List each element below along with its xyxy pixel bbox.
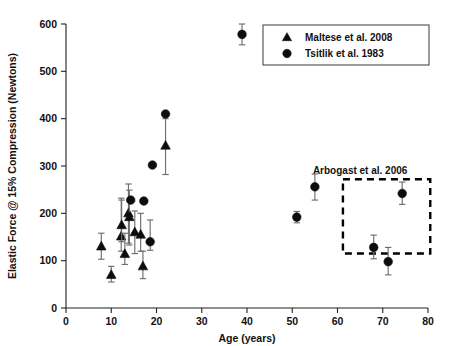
y-tick-label: 0: [51, 302, 57, 314]
x-tick-label: 0: [63, 315, 69, 327]
y-axis-title: Elastic Force @ 15% Compression (Newtons…: [6, 53, 18, 279]
x-tick-label: 10: [105, 315, 117, 327]
x-tick-label: 80: [422, 315, 434, 327]
data-point-circle[interactable]: [292, 213, 301, 222]
x-tick-label: 70: [377, 315, 389, 327]
y-tick-label: 300: [39, 160, 57, 172]
legend-entry-label: Maltese et al. 2008: [305, 32, 393, 43]
data-point-triangle[interactable]: [161, 140, 171, 149]
data-point-circle[interactable]: [146, 237, 155, 246]
chart-figure: 010020030040050060001020304050607080Age …: [0, 0, 451, 346]
y-tick-label: 600: [39, 18, 57, 30]
data-point-circle[interactable]: [126, 196, 135, 205]
annotation-box-arbogast: [343, 179, 430, 253]
x-tick-label: 50: [286, 315, 298, 327]
x-tick-label: 40: [241, 315, 253, 327]
legend-marker-circle: [283, 49, 291, 57]
data-point-triangle[interactable]: [138, 261, 148, 270]
y-tick-label: 200: [39, 207, 57, 219]
data-point-triangle[interactable]: [96, 241, 106, 250]
x-tick-label: 20: [151, 315, 163, 327]
data-point-triangle[interactable]: [106, 270, 116, 279]
y-tick-label: 500: [39, 65, 57, 77]
y-tick-label: 100: [39, 254, 57, 266]
scatter-plot: 010020030040050060001020304050607080Age …: [0, 0, 451, 346]
data-point-circle[interactable]: [369, 243, 378, 252]
x-tick-label: 60: [332, 315, 344, 327]
data-point-circle[interactable]: [140, 197, 149, 206]
data-point-circle[interactable]: [161, 110, 170, 119]
data-point-triangle[interactable]: [117, 220, 127, 229]
data-point-circle[interactable]: [311, 183, 320, 192]
y-tick-label: 400: [39, 112, 57, 124]
data-point-circle[interactable]: [398, 189, 407, 198]
x-tick-label: 30: [196, 315, 208, 327]
x-axis-title: Age (years): [218, 332, 275, 344]
data-point-circle[interactable]: [384, 257, 393, 266]
legend: Maltese et al. 2008Tsitlik et al. 1983: [263, 25, 429, 65]
data-point-circle[interactable]: [148, 161, 157, 170]
data-point-circle[interactable]: [238, 30, 247, 39]
annotation-label-arbogast: Arbogast et al. 2006: [313, 165, 408, 176]
legend-entry-label: Tsitlik et al. 1983: [305, 48, 384, 59]
